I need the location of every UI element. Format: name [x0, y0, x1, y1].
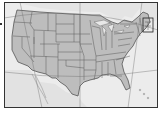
- edge-mark: [0, 23, 2, 25]
- us-map: United States map: [0, 0, 162, 115]
- map-svg: [0, 0, 162, 115]
- map-panel: [4, 2, 158, 108]
